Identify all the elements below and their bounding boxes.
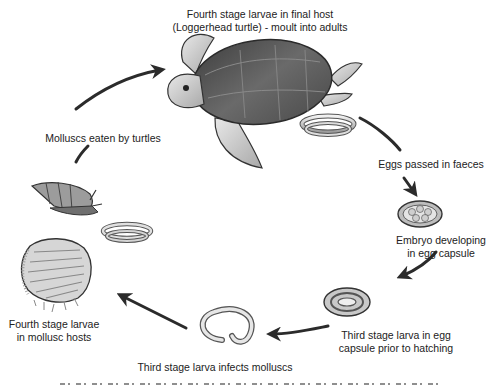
adult-worm-coil-icon <box>302 116 354 135</box>
arrow-to-turtle <box>76 70 160 109</box>
label-eggs-passed: Eggs passed in faeces <box>366 158 496 171</box>
snail-mollusc-icon <box>32 182 102 215</box>
label-third-stage-egg: Third stage larva in egg capsule prior t… <box>316 329 476 355</box>
scallop-mollusc-icon <box>21 239 91 312</box>
arrow-from-molluscs <box>76 146 88 162</box>
third-stage-larva-icon <box>203 309 252 342</box>
truncated-caption <box>60 380 440 385</box>
label-embryo: Embryo developing in egg capsule <box>386 234 496 260</box>
label-mollusc-hosts: Fourth stage larvae in mollusc hosts <box>0 318 108 344</box>
arrow-to-eggs-passed <box>360 118 400 150</box>
label-final-host: Fourth stage larvae in final host (Logge… <box>150 8 370 34</box>
label-infects-molluscs: Third stage larva infects molluscs <box>120 361 310 374</box>
loggerhead-turtle-icon <box>168 33 362 168</box>
embryo-egg-capsule-icon <box>398 201 442 227</box>
arrow-to-embryo <box>404 178 414 192</box>
larva-coil-icon <box>103 224 151 241</box>
arrow-to-mollusc-hosts <box>122 296 186 328</box>
label-eaten: Molluscs eaten by turtles <box>28 132 178 145</box>
larva-in-egg-capsule-icon <box>324 288 370 316</box>
